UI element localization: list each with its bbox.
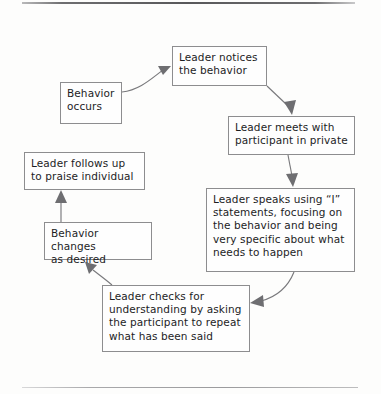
node-behavior-changes: Behavior changes as desired [44, 222, 152, 260]
node-leader-speaks: Leader speaks using “I” statements, focu… [206, 188, 355, 272]
node-behavior-occurs: Behavior occurs [60, 82, 122, 124]
node-leader-follows-up: Leader follows up to praise individual [24, 152, 145, 190]
edge-notices-to-meets [267, 86, 296, 115]
node-line: what has been said [109, 330, 244, 343]
node-line: to praise individual [31, 170, 139, 183]
node-line: Leader checks for [109, 290, 244, 303]
node-line: occurs [67, 100, 116, 113]
node-line: the participant to repeat [109, 316, 244, 329]
edge-occurs-to-notices [122, 66, 171, 92]
node-line: statements, focusing on [213, 206, 349, 219]
node-line: Leader speaks using “I” [213, 193, 349, 206]
node-line: Behavior [67, 87, 116, 100]
node-line: very specific about what [213, 233, 349, 246]
node-line: needs to happen [213, 246, 349, 259]
flowchart-page: Behavior occurs Leader notices the behav… [0, 0, 381, 394]
edge-speaks-to-checks [250, 272, 294, 307]
node-line: understanding by asking [109, 303, 244, 316]
node-line: as desired [51, 253, 146, 266]
node-leader-meets: Leader meets with participant in private [228, 116, 355, 155]
edge-changes-to-follows-up [55, 190, 67, 222]
node-line: the behavior [179, 64, 261, 77]
node-line: Leader notices [179, 51, 261, 64]
edge-meets-to-speaks [286, 155, 298, 187]
node-line: Leader follows up [31, 157, 139, 170]
node-line: the behavior and being [213, 219, 349, 232]
node-leader-checks: Leader checks for understanding by askin… [102, 285, 250, 352]
node-line: participant in private [235, 134, 349, 147]
bottom-divider-rule [22, 387, 358, 388]
node-line: Behavior changes [51, 227, 146, 253]
node-line: Leader meets with [235, 121, 349, 134]
node-leader-notices: Leader notices the behavior [172, 46, 267, 86]
